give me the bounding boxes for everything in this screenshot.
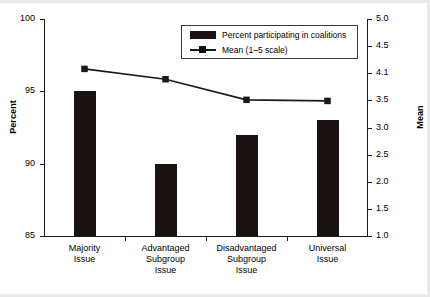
chart-legend: Percent participating in coalitions Mean… (181, 25, 358, 59)
line-marker (81, 66, 88, 73)
legend-label-line: Mean (1–5 scale) (222, 44, 288, 57)
y-tick-label-right: 2.0 (376, 177, 406, 186)
y-tick-right (368, 46, 372, 47)
legend-swatch-marker-icon (199, 46, 206, 53)
y-tick-right (368, 236, 372, 237)
x-tick (206, 237, 207, 241)
y-axis-left-title: Percent (8, 87, 18, 147)
y-tick-label-right: 3.0 (376, 123, 406, 132)
y-tick-label-left: 90 (5, 159, 35, 168)
x-tick (287, 237, 288, 241)
legend-label-bar: Percent participating in coalitions (222, 29, 346, 42)
y-tick-right (368, 19, 372, 20)
line-marker (162, 76, 169, 83)
x-tick (125, 237, 126, 241)
y-tick-label-right: 4.5 (376, 41, 406, 50)
x-axis-label-line: Issue (273, 254, 383, 265)
scan-artifact-top (0, 0, 430, 3)
line-marker (324, 98, 331, 105)
line-marker (243, 97, 250, 104)
y-tick-label-right: 5.0 (376, 14, 406, 23)
x-axis-label-line: Issue (192, 265, 302, 276)
y-tick-label-right: 3.5 (376, 95, 406, 104)
y-tick-right (368, 155, 372, 156)
x-axis-label-line: Universal (273, 243, 383, 254)
legend-entry-bar: Percent participating in coalitions (182, 27, 357, 43)
y-tick-label-left: 85 (5, 231, 35, 240)
legend-swatch-bar-icon (190, 31, 216, 39)
legend-entry-line: Mean (1–5 scale) (182, 42, 357, 58)
y-tick-label-right: 1.0 (376, 231, 406, 240)
y-tick-right (368, 209, 372, 210)
y-tick-left (40, 236, 44, 237)
y-tick-right (368, 182, 372, 183)
y-tick-right (368, 100, 372, 101)
x-axis-label: UniversalIssue (273, 243, 383, 265)
y-tick-label-right: 2.5 (376, 150, 406, 159)
y-tick-right (368, 73, 372, 74)
line-path (85, 69, 328, 101)
y-tick-right (368, 128, 372, 129)
y-tick-label-right: 1.5 (376, 204, 406, 213)
y-tick-label-left: 95 (5, 86, 35, 95)
y-axis-right-title: Mean (415, 87, 425, 147)
y-tick-label-left: 100 (5, 14, 35, 23)
chart-figure: Percent Mean 100959085 5.04.54.13.53.02.… (0, 0, 430, 297)
y-tick-label-right: 4.1 (376, 68, 406, 77)
